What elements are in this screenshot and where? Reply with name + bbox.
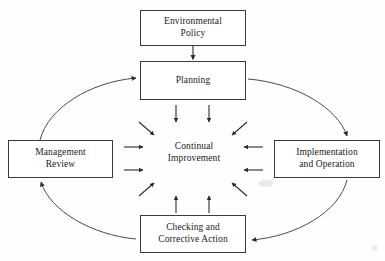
node-management-review-text: Management Review (35, 147, 86, 170)
inward-arrow-upper-left-diag (139, 122, 154, 135)
node-implementation-and-operation-line1: Implementation (296, 147, 358, 159)
scan-artifact-smudge (258, 180, 274, 187)
node-checking-and-corrective-action-line1: Checking and (158, 222, 228, 234)
node-planning-line1: Planning (176, 75, 211, 87)
inward-arrow-upper-right-diag (232, 122, 247, 135)
center-label-continual-improvement: Continual Improvement (148, 140, 240, 164)
node-environmental-policy-line2: Policy (164, 28, 222, 40)
center-label-line2: Improvement (148, 152, 240, 164)
connector-impl-to-checking (252, 180, 347, 240)
inward-arrow-lower-right-diag (232, 183, 247, 196)
node-planning[interactable]: Planning (140, 61, 246, 100)
node-planning-text: Planning (176, 75, 211, 87)
node-management-review[interactable]: Management Review (8, 140, 113, 178)
connector-checking-to-mgmt (41, 182, 136, 239)
node-checking-and-corrective-action-text: Checking and Corrective Action (158, 222, 228, 245)
node-environmental-policy-line1: Environmental (164, 16, 222, 28)
ems-continual-improvement-diagram: Continual Improvement Environmental Poli… (0, 0, 385, 261)
node-checking-and-corrective-action-line2: Corrective Action (158, 234, 228, 246)
scan-artifact-speck (371, 245, 378, 251)
connector-planning-to-impl (248, 79, 347, 136)
node-implementation-and-operation-line2: and Operation (296, 159, 358, 171)
node-implementation-and-operation[interactable]: Implementation and Operation (274, 140, 380, 178)
connector-mgmt-to-planning (40, 78, 136, 140)
node-management-review-line2: Review (35, 159, 86, 171)
inward-arrow-lower-left-diag (139, 183, 154, 196)
node-environmental-policy[interactable]: Environmental Policy (140, 10, 246, 46)
node-environmental-policy-text: Environmental Policy (164, 16, 222, 39)
center-label-line1: Continual (148, 140, 240, 152)
node-implementation-and-operation-text: Implementation and Operation (296, 147, 358, 170)
node-management-review-line1: Management (35, 147, 86, 159)
node-checking-and-corrective-action[interactable]: Checking and Corrective Action (140, 215, 246, 253)
